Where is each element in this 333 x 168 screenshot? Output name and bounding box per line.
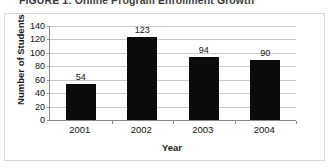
y-axis-tick-label: 80 <box>23 62 45 71</box>
bar-data-label: 94 <box>199 46 209 55</box>
x-axis-tick-mark <box>173 121 174 124</box>
y-axis-tick-labels: 020406080100120140 <box>23 26 45 120</box>
y-axis-tick-label: 140 <box>23 22 45 31</box>
bar-group: 94 <box>173 26 235 120</box>
x-axis-tick-label: 2002 <box>131 124 152 135</box>
figure-caption-clip: FIGURE 1: Online Program Enrollment Grow… <box>0 0 333 7</box>
bar-data-label: 54 <box>76 73 86 82</box>
y-axis-tick-label: 60 <box>23 75 45 84</box>
bar[interactable] <box>189 57 219 120</box>
y-axis-tick-label: 120 <box>23 35 45 44</box>
x-axis-tick-label: 2001 <box>69 124 90 135</box>
x-axis-tick-label: 2003 <box>192 124 213 135</box>
y-axis-tick-mark <box>47 120 50 121</box>
y-axis-tick-label: 40 <box>23 89 45 98</box>
figure-page: FIGURE 1: Online Program Enrollment Grow… <box>0 0 333 168</box>
x-axis-title: Year <box>49 142 295 153</box>
figure-frame: Number of Students 020406080100120140 54… <box>4 13 325 161</box>
figure-caption: FIGURE 1: Online Program Enrollment Grow… <box>19 0 254 6</box>
bar-group: 123 <box>112 26 174 120</box>
y-axis-tick-label: 100 <box>23 48 45 57</box>
bar-data-label: 123 <box>135 26 150 35</box>
bar-data-label: 90 <box>260 49 270 58</box>
x-axis-tick-mark <box>112 121 113 124</box>
bar[interactable] <box>66 84 96 120</box>
bar-chart: Number of Students 020406080100120140 54… <box>5 14 324 160</box>
x-axis-tick-mark <box>235 121 236 124</box>
bar-group: 90 <box>235 26 297 120</box>
x-axis-tick-mark <box>296 121 297 124</box>
y-axis-tick-label: 20 <box>23 102 45 111</box>
bar[interactable] <box>127 37 157 120</box>
y-axis-tick-label: 0 <box>23 116 45 125</box>
plot-area: 541239490 <box>49 26 296 121</box>
bar[interactable] <box>250 60 280 120</box>
x-axis-tick-label: 2004 <box>254 124 275 135</box>
bar-group: 54 <box>50 26 112 120</box>
